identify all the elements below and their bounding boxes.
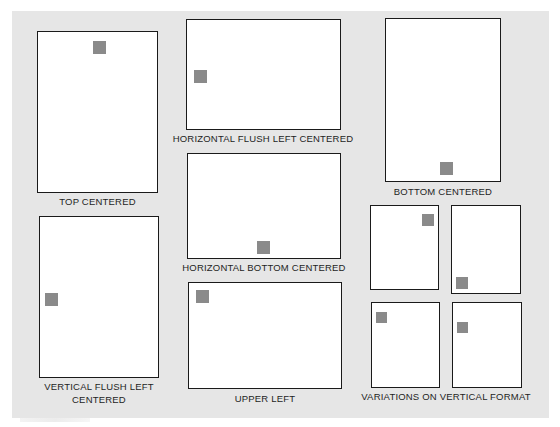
mark-horizontal-bottom-centered [257, 241, 270, 254]
label-bottom-centered: BOTTOM CENTERED [385, 185, 501, 198]
mark-variation-top-right [422, 214, 434, 226]
page-variation-bottom-left [451, 205, 521, 294]
mark-horizontal-flush-left-centered [194, 70, 207, 83]
scan-artifact [20, 418, 90, 422]
page-horizontal-bottom-centered [187, 153, 341, 259]
mark-top-centered [93, 41, 106, 54]
mark-variation-top-left [376, 312, 387, 323]
page-top-centered [37, 31, 158, 193]
mark-bottom-centered [440, 162, 453, 175]
figure: TOP CENTERED HORIZONTAL FLUSH LEFT CENTE… [0, 0, 560, 427]
mark-upper-left [196, 290, 209, 303]
page-bottom-centered [385, 18, 501, 182]
label-horizontal-bottom-centered: HORIZONTAL BOTTOM CENTERED [164, 261, 364, 274]
label-vertical-flush-left-line1: VERTICAL FLUSH LEFT [29, 380, 169, 393]
page-variation-upper-left-inset [452, 302, 522, 388]
label-variations-on-vertical-format: VARIATIONS ON VERTICAL FORMAT [346, 390, 546, 403]
page-upper-left [188, 282, 342, 389]
mark-vertical-flush-left-centered [45, 293, 58, 306]
label-vertical-flush-left-line2: CENTERED [29, 393, 169, 406]
page-variation-top-right [370, 205, 439, 290]
mark-variation-bottom-left [456, 277, 468, 289]
label-upper-left: UPPER LEFT [188, 392, 342, 405]
label-top-centered: TOP CENTERED [37, 195, 158, 208]
mark-variation-upper-left-inset [457, 322, 468, 333]
page-horizontal-flush-left-centered [186, 19, 341, 130]
label-horizontal-flush-left-centered: HORIZONTAL FLUSH LEFT CENTERED [163, 132, 363, 145]
page-variation-top-left [371, 302, 440, 388]
page-vertical-flush-left-centered [39, 216, 159, 378]
